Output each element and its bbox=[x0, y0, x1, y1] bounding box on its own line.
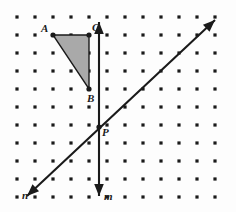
grid-dot bbox=[33, 177, 36, 180]
grid-dot bbox=[123, 33, 126, 36]
geometry-figure: ACBPnm bbox=[0, 0, 236, 212]
grid-dot bbox=[141, 177, 144, 180]
grid-dot bbox=[87, 195, 90, 198]
grid-dot bbox=[159, 15, 162, 18]
grid-dot bbox=[213, 141, 216, 144]
grid-dot bbox=[159, 33, 162, 36]
grid-dot bbox=[69, 177, 72, 180]
grid-dot bbox=[195, 123, 198, 126]
grid-dot bbox=[141, 105, 144, 108]
dot-grid bbox=[15, 15, 216, 198]
point-C-label: C bbox=[92, 22, 99, 33]
grid-dot bbox=[15, 195, 18, 198]
line-n-diagonal bbox=[27, 20, 215, 196]
lines-layer bbox=[27, 20, 215, 196]
line-m-vertical-arrow-end bbox=[94, 184, 104, 196]
grid-dot bbox=[33, 105, 36, 108]
grid-dot bbox=[123, 87, 126, 90]
grid-dot bbox=[195, 105, 198, 108]
figure-canvas bbox=[0, 0, 236, 212]
grid-dot bbox=[213, 33, 216, 36]
grid-dot bbox=[15, 51, 18, 54]
point-A-label: A bbox=[41, 23, 48, 34]
grid-dot bbox=[213, 15, 216, 18]
grid-dot bbox=[123, 15, 126, 18]
grid-dot bbox=[51, 51, 54, 54]
grid-dot bbox=[87, 141, 90, 144]
grid-dot bbox=[159, 51, 162, 54]
grid-dot bbox=[51, 195, 54, 198]
grid-dot bbox=[15, 105, 18, 108]
grid-dot bbox=[15, 141, 18, 144]
grid-dot bbox=[177, 87, 180, 90]
grid-dot bbox=[195, 51, 198, 54]
grid-dot bbox=[195, 87, 198, 90]
grid-dot bbox=[51, 87, 54, 90]
grid-dot bbox=[123, 51, 126, 54]
grid-dot bbox=[213, 123, 216, 126]
grid-dot bbox=[105, 177, 108, 180]
grid-dot bbox=[105, 69, 108, 72]
grid-dot bbox=[105, 105, 108, 108]
grid-dot bbox=[33, 51, 36, 54]
grid-dot bbox=[195, 195, 198, 198]
grid-dot bbox=[51, 123, 54, 126]
grid-dot bbox=[159, 177, 162, 180]
grid-dot bbox=[87, 177, 90, 180]
grid-dot bbox=[123, 141, 126, 144]
grid-dot bbox=[159, 141, 162, 144]
grid-dot bbox=[123, 195, 126, 198]
grid-dot bbox=[15, 33, 18, 36]
grid-dot bbox=[177, 69, 180, 72]
point-A-dot bbox=[50, 32, 55, 37]
grid-dot bbox=[51, 15, 54, 18]
grid-dot bbox=[177, 15, 180, 18]
grid-dot bbox=[15, 15, 18, 18]
grid-dot bbox=[141, 69, 144, 72]
grid-dot bbox=[177, 195, 180, 198]
grid-dot bbox=[15, 159, 18, 162]
grid-dot bbox=[51, 69, 54, 72]
grid-dot bbox=[213, 159, 216, 162]
point-B-label: B bbox=[87, 93, 94, 104]
grid-dot bbox=[87, 159, 90, 162]
grid-dot bbox=[159, 123, 162, 126]
grid-dot bbox=[87, 123, 90, 126]
grid-dot bbox=[69, 105, 72, 108]
grid-dot bbox=[69, 159, 72, 162]
grid-dot bbox=[51, 177, 54, 180]
grid-dot bbox=[33, 195, 36, 198]
grid-dot bbox=[105, 159, 108, 162]
grid-dot bbox=[195, 69, 198, 72]
grid-dot bbox=[141, 141, 144, 144]
grid-dot bbox=[69, 141, 72, 144]
triangle-ABC bbox=[53, 35, 89, 89]
grid-dot bbox=[141, 159, 144, 162]
grid-dot bbox=[141, 195, 144, 198]
grid-dot bbox=[177, 123, 180, 126]
grid-dot bbox=[51, 141, 54, 144]
point-C-dot bbox=[86, 32, 91, 37]
grid-dot bbox=[33, 87, 36, 90]
grid-dot bbox=[69, 87, 72, 90]
point-P-label: P bbox=[102, 127, 109, 138]
grid-dot bbox=[69, 195, 72, 198]
grid-dot bbox=[69, 123, 72, 126]
point-B-dot bbox=[86, 86, 91, 91]
triangle-shape bbox=[53, 35, 89, 89]
grid-dot bbox=[87, 105, 90, 108]
grid-dot bbox=[15, 123, 18, 126]
grid-dot bbox=[213, 195, 216, 198]
grid-dot bbox=[177, 33, 180, 36]
grid-dot bbox=[69, 15, 72, 18]
line-label-m: m bbox=[104, 191, 113, 202]
grid-dot bbox=[195, 15, 198, 18]
grid-dot bbox=[123, 159, 126, 162]
grid-dot bbox=[123, 177, 126, 180]
grid-dot bbox=[177, 141, 180, 144]
grid-dot bbox=[177, 159, 180, 162]
grid-dot bbox=[177, 105, 180, 108]
grid-dot bbox=[33, 69, 36, 72]
grid-dot bbox=[141, 123, 144, 126]
grid-dot bbox=[195, 177, 198, 180]
